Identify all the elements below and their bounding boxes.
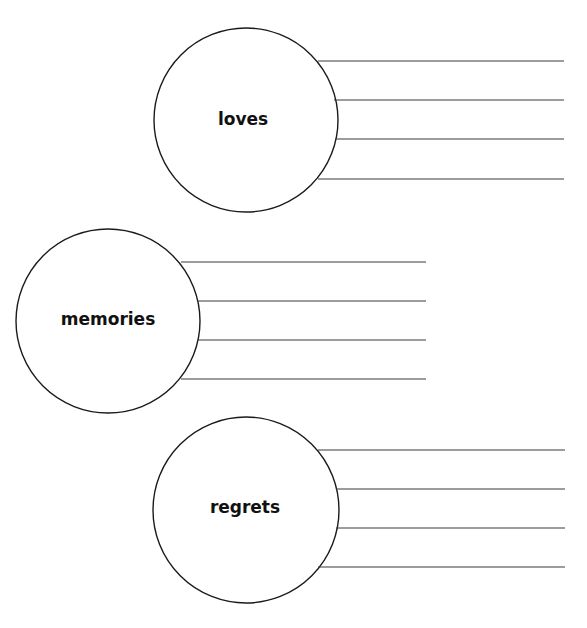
- regrets-label: regrets: [210, 497, 280, 517]
- loves-label: loves: [218, 109, 268, 129]
- memories-label: memories: [61, 309, 156, 329]
- group-loves: [154, 28, 564, 212]
